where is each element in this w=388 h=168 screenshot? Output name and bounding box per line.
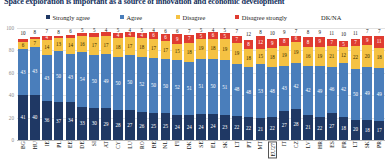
bar-segment: 13 [54,38,64,51]
bar-column: 66175025 [160,28,172,140]
bar-column: 128184822 [243,28,255,140]
bar-segment: 17 [89,37,99,55]
bar-segment: 22 [315,117,325,140]
x-axis-label: LV [305,141,311,149]
x-axis-label: IT [281,141,287,147]
bar-segment: 49 [315,66,325,117]
x-axis-label-slot: IE [41,141,53,168]
bar-segment: 7 [327,39,337,46]
bar-segment: 22 [232,116,242,140]
legend-item-agree: Agree [120,14,142,21]
x-axis-label: PT [246,141,252,149]
bar-segment: 42 [291,63,301,109]
bar-segment: 37 [54,102,64,140]
x-axis-label: EL [210,141,216,149]
bar-segment: 14 [42,40,52,55]
bar-segment: 25 [161,113,171,140]
x-axis-label: BE [151,141,157,149]
bar-column: 1064341 [17,28,29,140]
x-axis-label: RO [139,141,145,150]
bar-segment: 41 [18,95,28,140]
y-axis-tick: 60 [0,70,14,76]
y-axis-tick: 0 [0,137,14,143]
bar-segment: 16 [77,36,87,52]
bar-column: 77185124 [183,28,195,140]
bar-segment: 10 [267,28,277,38]
bar-segment: 48 [244,67,254,117]
legend-label-dk_na: DK/NA [321,14,341,21]
bar-segment: 50 [149,58,159,113]
bar-segment: 48 [232,64,242,116]
x-axis-label-slot: EL [207,141,219,168]
bar-segment: 8 [244,40,254,48]
bar-segment: 53 [256,64,266,118]
x-axis-label-slot: RO [136,141,148,168]
bar-segment: 42 [303,66,313,116]
bar-segment: 49 [374,68,384,122]
x-axis-label-slot: EU27 [266,141,278,168]
bar-segment: 50 [113,57,123,110]
bar-segment: 50 [208,59,218,114]
bar-segment: 27 [125,110,135,140]
x-axis-label-slot: EE [65,141,77,168]
bar-segment: 9 [362,36,372,46]
bar-column: 874340 [29,28,41,140]
y-axis-tick: 40 [0,92,14,98]
bar-segment: 54 [77,52,87,106]
x-axis-label: LU [127,141,133,150]
bar-segment: 10 [18,28,28,39]
bar-segment: 27 [279,111,289,140]
bar-segment: 11 [351,28,361,39]
bar-segment: 52 [172,60,182,115]
bar-segment: 8 [30,28,40,37]
bar-segment: 19 [291,42,301,63]
legend-swatch-disagree [176,15,180,19]
x-axis-label: LT [234,141,240,149]
bar-segment: 9 [279,28,289,38]
x-axis-label: SK [222,141,228,149]
bar-segment: 19 [220,39,230,60]
x-axis-label-slot: CY [112,141,124,168]
x-axis-label: PR [376,141,382,149]
bar-segment: 24 [196,114,206,140]
bar-segment: 8 [279,38,289,46]
bar-segment: 7 [351,39,361,46]
bar-segment: 50 [161,59,171,113]
bar-segment: 17 [374,121,384,140]
bar-column: 77194822 [231,28,243,140]
bar-segment: 27 [327,113,337,140]
x-axis-label: LT [352,141,358,149]
bar-column: 5165433 [76,28,88,140]
x-axis-label-slot: BE [148,141,160,168]
bar-segment: 8 [256,28,266,36]
x-axis-label-slot: LT [231,141,243,168]
x-axis-label: EE [67,141,73,149]
bar-segment: 51 [196,59,206,114]
bar-column: 98194327 [278,28,290,140]
bar-segment: 21 [303,115,313,140]
bar-segment: 18 [208,39,218,59]
legend-label-strongly_agree: Strongly agree [53,14,90,21]
bar-segment: 18 [184,43,194,62]
x-axis-label: FI [174,141,180,147]
bar-segment: 22 [244,117,254,140]
x-axis-label-slot: HU [29,141,41,168]
x-axis-label: EU27 [268,141,277,158]
legend-label-agree: Agree [126,14,142,21]
bar-segment: 8 [303,28,313,37]
bar-segment: 43 [18,49,28,96]
chart-title: Space exploration is important as a sour… [4,0,386,6]
bar-column: 55195123 [219,28,231,140]
bar-segment: 50 [89,55,99,108]
bar-segment: 43 [66,54,76,102]
bar-column: 54185028 [112,28,124,140]
bar-segment: 20 [351,120,361,140]
bar-segment: 7 [362,28,372,36]
x-axis-label: FR [341,141,347,149]
x-axis-label-slot: PR [373,141,385,168]
legend-label-disagree: Disagree [183,14,206,21]
bar-segment: 29 [101,108,111,140]
y-axis: 100806040200 [0,28,15,140]
x-axis-label: SK [364,141,370,149]
x-axis-labels: BGHUIEPLEEDESIATCYLUROBENLFIDKSEELSKLTPT… [17,141,385,168]
